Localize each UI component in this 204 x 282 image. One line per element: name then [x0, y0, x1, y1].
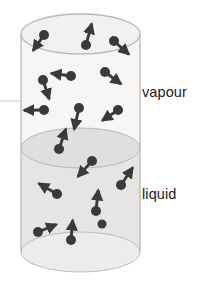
cylinder-bottom-cap	[21, 232, 140, 272]
liquid-label: liquid	[142, 186, 176, 202]
particle	[98, 220, 107, 229]
vapour-label: vapour	[142, 84, 187, 100]
liquid-surface-ellipse	[21, 128, 140, 168]
liquid-vapour-diagram	[0, 0, 204, 282]
